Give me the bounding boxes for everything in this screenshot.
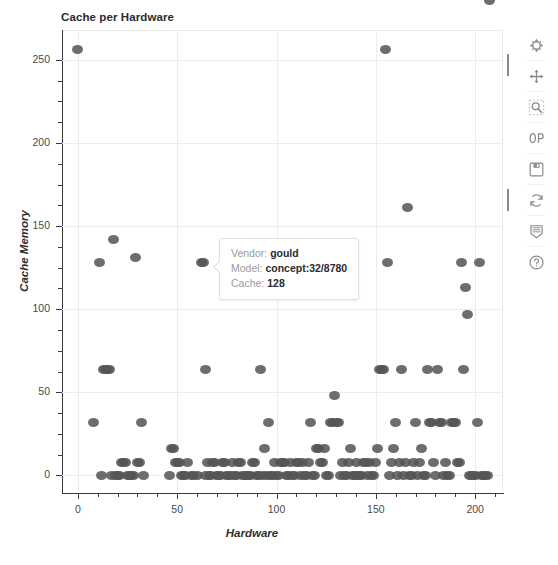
gridline-horizontal (62, 309, 503, 310)
x-axis-line (62, 493, 504, 494)
x-axis-tick-label: 50 (171, 503, 183, 515)
x-axis-minor-tick (316, 493, 317, 497)
chart-toolbar[interactable] (520, 30, 552, 277)
scatter-point[interactable] (456, 258, 467, 267)
scatter-point[interactable] (390, 418, 401, 427)
scatter-point[interactable] (138, 471, 149, 480)
x-axis-minor-tick (237, 493, 238, 497)
scatter-point[interactable] (472, 418, 483, 427)
scatter-point[interactable] (303, 458, 314, 467)
scatter-point[interactable] (200, 365, 211, 374)
y-axis-tick-label: 150 (32, 219, 50, 231)
scatter-point[interactable] (444, 471, 455, 480)
scatter-point[interactable] (134, 458, 145, 467)
toolbar-notch-top (507, 54, 509, 76)
scatter-point[interactable] (345, 444, 356, 453)
x-axis-minor-tick (118, 493, 119, 497)
scatter-point[interactable] (454, 458, 465, 467)
scatter-point[interactable] (136, 418, 147, 427)
x-axis-tick (277, 493, 278, 499)
y-axis-minor-tick (58, 330, 62, 331)
x-axis-minor-tick (396, 493, 397, 497)
scatter-point[interactable] (120, 458, 131, 467)
scatter-point[interactable] (370, 458, 381, 467)
x-axis-minor-tick (257, 493, 258, 497)
y-axis-tick-label: 50 (38, 385, 50, 397)
gridline-vertical (376, 30, 377, 492)
scatter-point[interactable] (317, 458, 328, 467)
scatter-point[interactable] (333, 418, 344, 427)
scatter-point[interactable] (432, 365, 443, 374)
x-axis-tick-label: 200 (466, 503, 484, 515)
y-axis-tick-label: 200 (32, 136, 50, 148)
scatter-point[interactable] (460, 283, 471, 292)
x-axis-tick (78, 493, 79, 499)
scatter-point[interactable] (396, 365, 407, 374)
tooltip-key-cache: Cache: (231, 277, 264, 289)
scatter-point[interactable] (484, 0, 495, 5)
x-axis-minor-tick (137, 493, 138, 497)
help-icon[interactable] (521, 247, 551, 277)
scatter-point[interactable] (164, 471, 175, 480)
scatter-point[interactable] (378, 365, 389, 374)
scatter-point[interactable] (428, 458, 439, 467)
scatter-point[interactable] (305, 418, 316, 427)
layers-icon[interactable] (521, 216, 551, 246)
scatter-point[interactable] (458, 365, 469, 374)
x-axis-minor-tick (197, 493, 198, 497)
y-axis-minor-tick (58, 81, 62, 82)
gridline-vertical (177, 30, 178, 492)
scatter-point[interactable] (309, 471, 320, 480)
x-axis-tick (475, 493, 476, 499)
zoom-select-icon[interactable] (521, 92, 551, 122)
y-axis-minor-tick (58, 413, 62, 414)
scatter-point[interactable] (474, 258, 485, 267)
tooltip-key-vendor: Vendor: (231, 247, 267, 259)
x-axis-minor-tick (217, 493, 218, 497)
scatter-point[interactable] (104, 365, 115, 374)
scatter-point[interactable] (414, 458, 425, 467)
scatter-point[interactable] (462, 310, 473, 319)
gridline-horizontal (62, 392, 503, 393)
scatter-point[interactable] (323, 471, 334, 480)
chart-app: Cache per Hardware 050100150200050100150… (0, 0, 558, 565)
y-axis-line (62, 30, 63, 494)
y-axis-minor-tick (58, 434, 62, 435)
x-axis-tick (376, 493, 377, 499)
gridline-horizontal (62, 60, 503, 61)
scatter-point[interactable] (440, 458, 451, 467)
settings-gear-icon[interactable] (521, 30, 551, 60)
gridline-horizontal (62, 226, 503, 227)
probe-icon[interactable] (521, 123, 551, 153)
scatter-point[interactable] (450, 418, 461, 427)
y-axis-minor-tick (58, 122, 62, 123)
x-axis-tick (177, 493, 178, 499)
scatter-point[interactable] (108, 235, 119, 244)
gridline-horizontal (62, 143, 503, 144)
pan-move-icon[interactable] (521, 61, 551, 91)
y-axis-minor-tick (58, 455, 62, 456)
scatter-point[interactable] (88, 418, 99, 427)
y-axis-tick-label: 250 (32, 53, 50, 65)
x-axis-tick-label: 100 (268, 503, 286, 515)
x-axis-minor-tick (336, 493, 337, 497)
refresh-icon[interactable] (521, 185, 551, 215)
scatter-point[interactable] (263, 418, 274, 427)
y-axis-tick (56, 392, 62, 393)
scatter-point[interactable] (182, 458, 193, 467)
y-axis-minor-tick (58, 101, 62, 102)
scatter-point[interactable] (329, 391, 340, 400)
y-axis-tick (56, 226, 62, 227)
tooltip-arrow-icon (214, 261, 221, 273)
scatter-point[interactable] (319, 444, 330, 453)
scatter-point[interactable] (255, 365, 266, 374)
scatter-point[interactable] (410, 418, 421, 427)
y-axis-minor-tick (58, 268, 62, 269)
scatter-point[interactable] (235, 458, 246, 467)
x-axis-minor-tick (435, 493, 436, 497)
save-icon[interactable] (521, 154, 551, 184)
scatter-point[interactable] (482, 471, 493, 480)
x-axis-minor-tick (157, 493, 158, 497)
scatter-point[interactable] (249, 458, 260, 467)
scatter-point[interactable] (198, 258, 209, 267)
